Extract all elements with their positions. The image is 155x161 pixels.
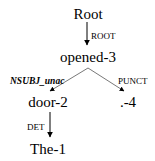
node-root: Root: [73, 6, 103, 22]
node-opened: opened-3: [60, 49, 116, 65]
node-door: door-2: [28, 94, 68, 110]
node-punct: .-4: [120, 94, 137, 110]
edge-label-root: ROOT: [91, 31, 116, 41]
node-the: The-1: [30, 141, 66, 157]
edge-label-nsubj: NSUBJ_unac: [9, 76, 65, 86]
edge-label-punct: PUNCT: [118, 76, 148, 86]
dependency-tree: Root opened-3 door-2 .-4 The-1 ROOT NSUB…: [0, 0, 155, 161]
edge-label-det: DET: [27, 122, 45, 132]
